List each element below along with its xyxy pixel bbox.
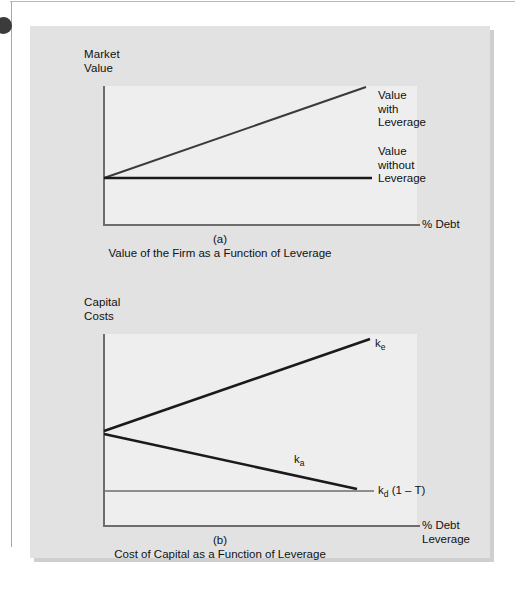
chart-b-label-kd-tail: (1 – T) bbox=[388, 484, 425, 496]
chart-b-line-ka bbox=[104, 434, 357, 489]
chart-b-caption-text: Cost of Capital as a Function of Leverag… bbox=[0, 547, 450, 561]
chart-a-caption-letter: (a) bbox=[0, 232, 450, 246]
chart-a: Market Value Value with Leverage Value w… bbox=[30, 26, 490, 271]
chart-b-label-ke: ke bbox=[375, 337, 385, 352]
exhibit-panel: Market Value Value with Leverage Value w… bbox=[30, 26, 490, 558]
chart-a-line-value-with-leverage bbox=[104, 87, 366, 178]
chart-b-label-kd-base: k bbox=[378, 484, 384, 496]
chart-b-label-ke-sub: e bbox=[381, 342, 386, 352]
chart-b-label-kd-after-tax: kd (1 – T) bbox=[378, 484, 425, 499]
chart-a-label-value-without-leverage: Value without Leverage bbox=[378, 145, 426, 186]
chart-a-caption-text: Value of the Firm as a Function of Lever… bbox=[0, 246, 450, 260]
page-top-rule bbox=[10, 1, 515, 2]
page-margin-rule bbox=[11, 2, 12, 547]
chart-a-label-value-with-leverage: Value with Leverage bbox=[378, 89, 426, 130]
chart-a-x-axis-label: % Debt bbox=[422, 218, 460, 232]
chart-b-line-ke bbox=[104, 339, 370, 431]
chart-b-caption-letter: (b) bbox=[0, 533, 450, 547]
chart-b-label-ka: ka bbox=[294, 453, 304, 468]
chart-b: Capital Costs ke ka kd (1 – T) % Debt Le… bbox=[30, 271, 490, 558]
chart-b-label-ka-base: k bbox=[294, 453, 300, 465]
chart-b-series-lines bbox=[30, 271, 490, 558]
chart-b-label-ke-base: k bbox=[375, 337, 381, 349]
chart-b-label-kd-sub: d bbox=[384, 489, 389, 499]
chart-b-x-axis-label-line1: % Debt bbox=[422, 519, 460, 533]
chart-b-label-ka-sub: a bbox=[300, 458, 305, 468]
figure-page: Market Value Value with Leverage Value w… bbox=[0, 0, 515, 594]
